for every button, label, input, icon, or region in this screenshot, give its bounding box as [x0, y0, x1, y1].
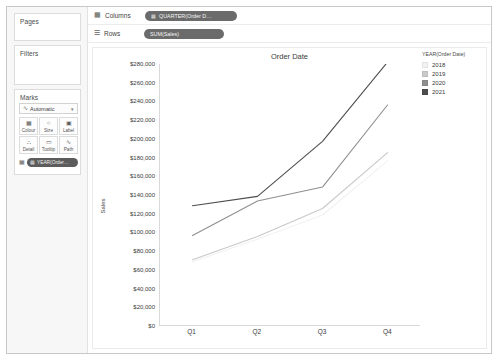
marks-year-pill-label: YEAR(Order… [37, 160, 69, 165]
legend-item[interactable]: 2021 [422, 87, 484, 96]
rows-pill-label: SUM(Sales) [150, 31, 179, 37]
tableau-window: Pages Filters Marks ∿ Automatic ▾ ▦ Colo… [6, 6, 492, 354]
columns-pill-quarter-order-date[interactable]: ▦ QUARTER(Order D… [145, 11, 237, 21]
marks-button-path-label: Path [64, 147, 73, 152]
columns-shelf-label: Columns [105, 12, 145, 19]
y-axis-tick-label: $0 [148, 323, 155, 329]
legend-item-label: 2021 [432, 89, 445, 95]
legend-swatch [422, 80, 428, 86]
y-axis-tick-label: $60,000 [133, 267, 155, 273]
filters-card-title: Filters [15, 46, 80, 57]
marks-button-colour[interactable]: ▦ Colour [19, 117, 38, 135]
calendar-icon: ▦ [30, 160, 35, 165]
marks-card-title: Marks [15, 90, 80, 101]
legend-item[interactable]: 2018 [422, 60, 484, 69]
x-axis-labels: Q1Q2Q3Q4 [159, 328, 420, 340]
marks-button-grid: ▦ Colour ○ Size ▣ Label ∴ Detail [19, 117, 78, 154]
path-icon: ∿ [66, 138, 71, 146]
marks-colour-pill-row: ▦ ▦ YEAR(Order… [19, 157, 78, 167]
columns-icon: ▦ [94, 12, 101, 19]
y-axis-tick-label: $100,000 [130, 229, 155, 235]
detail-icon: ∴ [27, 138, 31, 146]
calendar-icon: ▦ [151, 13, 156, 19]
y-axis-tick-label: $40,000 [133, 286, 155, 292]
colour-legend: YEAR(Order Date) 2018201920202021 [422, 51, 484, 96]
line-mark-icon: ∿ [23, 106, 28, 112]
y-axis-tick-label: $80,000 [133, 248, 155, 254]
pages-card[interactable]: Pages [14, 13, 81, 41]
line-series[interactable] [193, 64, 388, 206]
rows-pill-sum-sales[interactable]: SUM(Sales) [144, 29, 224, 39]
chevron-down-icon: ▾ [71, 106, 74, 112]
marks-button-label-label: Label [63, 128, 74, 133]
marks-card[interactable]: Marks ∿ Automatic ▾ ▦ Colour ○ Size [14, 89, 81, 175]
legend-swatch [422, 89, 428, 95]
colour-legend-icon: ▦ [19, 159, 25, 165]
columns-pill-label: QUARTER(Order D… [159, 13, 212, 19]
pages-card-title: Pages [15, 14, 80, 25]
filters-card[interactable]: Filters [14, 45, 81, 85]
x-axis-tick-label: Q1 [187, 328, 196, 335]
y-axis-ticks: $280,000$260,000$240,000$220,000$200,000… [101, 64, 157, 326]
line-series[interactable] [193, 161, 388, 262]
y-axis-tick-label: $240,000 [130, 98, 155, 104]
label-icon: ▣ [66, 119, 72, 127]
chart-canvas: Order Date YEAR(Order Date) 201820192020… [92, 47, 487, 349]
mark-type-dropdown[interactable]: ∿ Automatic ▾ [19, 103, 78, 114]
marks-button-detail[interactable]: ∴ Detail [19, 136, 38, 154]
marks-button-detail-label: Detail [23, 147, 35, 152]
marks-button-label[interactable]: ▣ Label [59, 117, 78, 135]
y-axis-tick-label: $260,000 [130, 80, 155, 86]
rows-shelf[interactable]: ☰ Rows SUM(Sales) [88, 25, 491, 43]
left-rail: Pages Filters Marks ∿ Automatic ▾ ▦ Colo… [7, 7, 87, 353]
legend-swatch [422, 71, 428, 77]
x-axis-tick-label: Q4 [383, 328, 392, 335]
marks-button-colour-label: Colour [22, 128, 36, 133]
y-axis-tick-label: $20,000 [133, 304, 155, 310]
marks-year-pill[interactable]: ▦ YEAR(Order… [27, 158, 78, 167]
y-axis-tick-label: $220,000 [130, 117, 155, 123]
legend-item-list: 2018201920202021 [422, 60, 484, 96]
legend-item[interactable]: 2019 [422, 69, 484, 78]
rows-shelf-label: Rows [104, 30, 144, 37]
legend-item-label: 2019 [432, 71, 445, 77]
y-axis-tick-label: $140,000 [130, 192, 155, 198]
y-axis-tick-label: $120,000 [130, 211, 155, 217]
y-axis-tick-label: $280,000 [130, 61, 155, 67]
x-axis-tick-label: Q2 [253, 328, 262, 335]
marks-button-path[interactable]: ∿ Path [59, 136, 78, 154]
legend-item-label: 2018 [432, 62, 445, 68]
y-axis-tick-label: $200,000 [130, 136, 155, 142]
line-series-svg [160, 64, 420, 325]
y-axis-tick-label: $160,000 [130, 173, 155, 179]
x-axis-tick-label: Q3 [318, 328, 327, 335]
colour-icon: ▦ [26, 119, 32, 127]
size-icon: ○ [47, 119, 51, 127]
marks-button-tooltip[interactable]: ▭ Tooltip [39, 136, 58, 154]
y-axis-tick-label: $180,000 [130, 155, 155, 161]
line-series[interactable] [193, 105, 388, 236]
marks-button-tooltip-label: Tooltip [42, 147, 55, 152]
rows-icon: ☰ [94, 30, 100, 37]
plot-area [159, 64, 420, 326]
chart-view: Order Date YEAR(Order Date) 201820192020… [87, 43, 491, 353]
legend-title: YEAR(Order Date) [422, 51, 484, 57]
shelf-area: ▦ Columns ▦ QUARTER(Order D… ☰ Rows SUM(… [87, 7, 491, 43]
marks-button-size-label: Size [44, 128, 53, 133]
worksheet-workspace: Pages Filters Marks ∿ Automatic ▾ ▦ Colo… [7, 7, 491, 353]
legend-item-label: 2020 [432, 80, 445, 86]
columns-shelf[interactable]: ▦ Columns ▦ QUARTER(Order D… [88, 7, 491, 25]
legend-item[interactable]: 2020 [422, 78, 484, 87]
mark-type-value: Automatic [30, 106, 71, 112]
legend-swatch [422, 62, 428, 68]
plot-wrapper: Sales $280,000$260,000$240,000$220,000$2… [93, 64, 422, 348]
marks-button-size[interactable]: ○ Size [39, 117, 58, 135]
tooltip-icon: ▭ [46, 138, 52, 146]
